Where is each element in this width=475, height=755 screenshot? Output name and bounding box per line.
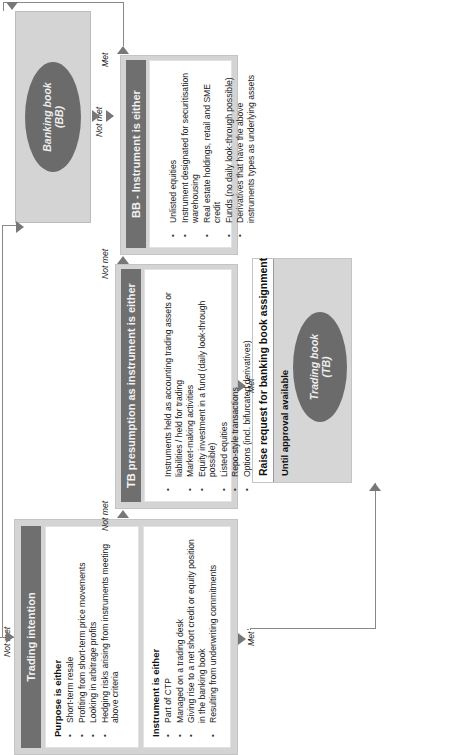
banking-book-ellipse: Banking book (BB) — [25, 62, 81, 172]
trading-book-label: Trading book — [308, 334, 320, 400]
met-connector-vertical — [250, 628, 376, 629]
trading-book-ellipse: Trading book (TB) — [293, 312, 347, 422]
arrow-not-met-trading-to-tb — [117, 510, 129, 518]
met-connector-horizontal — [375, 483, 376, 629]
line-bb-met-horizontal — [123, 3, 124, 46]
raise-request-box: Raise request for banking book assignmen… — [252, 258, 352, 483]
bb-met-loop-vertical — [3, 2, 121, 3]
trading-intention-instrument-box: Instrument is either Part of CTP Managed… — [143, 526, 231, 748]
trading-intention-title: Trading intention — [21, 526, 41, 748]
purpose-item: Short-term resale — [65, 533, 76, 737]
not-met-label-2: Not met — [100, 249, 110, 279]
bb-item: Funds (no daily look-through possible) — [224, 67, 235, 237]
tb-item: Equity investment in a fund (daily look-… — [197, 276, 218, 491]
purpose-item: Looking in arbitrage profits — [88, 533, 99, 737]
tb-presumption-box: Instruments held as accounting trading a… — [144, 269, 232, 502]
tb-item: Listed equities — [219, 276, 230, 491]
not-met-label-1: Not met — [100, 501, 110, 531]
bb-instrument-list: Unlisted equities Instrument designated … — [168, 67, 256, 237]
instrument-item: Managed on a trading desk — [175, 533, 186, 737]
banking-book-label: Banking book — [41, 82, 53, 151]
bb-item: Unlisted equities — [168, 67, 179, 237]
tb-item: Instruments held as accounting trading a… — [163, 276, 184, 491]
instrument-item: Resulting from underwriting commitments — [208, 533, 219, 737]
trading-intention-purpose-box: Purpose is either Short-term resale Prof… — [45, 526, 139, 748]
instrument-heading: Instrument is either — [150, 533, 161, 737]
bb-item: Real estate holdings, retail and SME cre… — [202, 67, 223, 237]
bb-instrument-title: BB - Instrument is either — [126, 60, 146, 248]
raise-request-title: Raise request for banking book assignmen… — [257, 258, 269, 476]
banking-book-abbr: (BB) — [53, 106, 65, 128]
line-met-route-to-request — [248, 629, 249, 630]
instrument-list: Part of CTP Managed on a trading desk Gi… — [163, 533, 219, 737]
tb-presumption-panel: TB presumption as instrument is either I… — [115, 264, 238, 509]
bank-book-assignment-flowchart: Trading intention Purpose is either Shor… — [0, 0, 475, 755]
line-trading-met-path-h — [250, 629, 251, 630]
arrow-met-tb-presumption — [238, 380, 246, 392]
arrow-met-bb — [117, 46, 129, 54]
arrow-met-trading — [238, 633, 246, 645]
line-top-horizontal — [2, 226, 3, 638]
raise-request-subtitle: Until approval available — [279, 370, 290, 476]
purpose-list: Short-term resale Profiting from short-t… — [65, 533, 121, 737]
purpose-item: Profiting from short-term price movement… — [77, 533, 88, 737]
arrow-into-banking-book-end — [6, 2, 18, 10]
line-bb-met-to-banking — [3, 2, 4, 11]
arrow-into-raise-request — [369, 483, 381, 491]
trading-book-abbr: (TB) — [320, 357, 332, 378]
instrument-item: Giving rise to a net short credit or equ… — [186, 533, 207, 737]
arrow-to-banking-book-top — [16, 221, 24, 233]
arrow-not-met-tb-to-bb — [117, 256, 129, 264]
purpose-heading: Purpose is either — [52, 533, 63, 737]
met-label-bb: Met — [100, 53, 110, 67]
trading-intention-panel: Trading intention Purpose is either Shor… — [14, 519, 238, 755]
bb-instrument-panel: BB - Instrument is either Unlisted equit… — [120, 55, 238, 255]
banking-book-box: Banking book (BB) — [15, 11, 91, 223]
arrow-not-met-trading-up — [6, 631, 14, 643]
tb-presumption-title: TB presumption as instrument is either — [121, 269, 141, 502]
bb-item: Instrument designated for securitisation… — [180, 67, 201, 237]
arrow-into-bb-panel — [92, 110, 100, 122]
bb-item: Derivatives that have the above instrume… — [235, 67, 256, 237]
purpose-item: Hedging risks arising from instruments m… — [100, 533, 121, 737]
bb-instrument-box: Unlisted equities Instrument designated … — [149, 60, 232, 248]
tb-item: Market-making activities — [185, 276, 196, 491]
arrow-not-met-bb — [106, 110, 114, 122]
met-label-trading: Met — [246, 632, 256, 646]
instrument-item: Part of CTP — [163, 533, 174, 737]
met-label-tb: Met — [246, 379, 256, 393]
